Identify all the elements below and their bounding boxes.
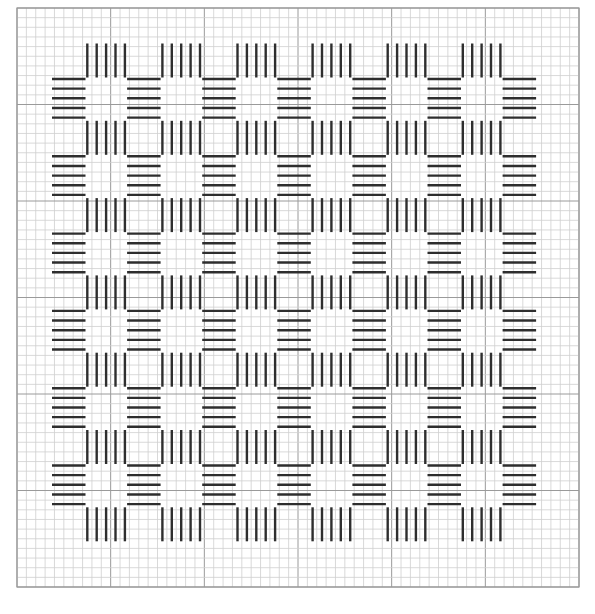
grid [17,8,579,587]
stitch-pattern-canvas [0,0,595,614]
